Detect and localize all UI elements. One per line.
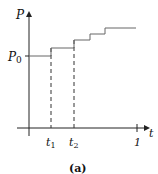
x-tick-label-one: 1 — [134, 136, 141, 149]
x-axis-label: t — [149, 127, 154, 140]
t2-label: t2 — [69, 136, 79, 150]
step-function-line — [29, 28, 136, 56]
chart-canvas: P t P0 t1 t2 1 (a) — [0, 0, 158, 174]
t1-label: t1 — [46, 136, 56, 150]
y-axis-label: P — [15, 8, 25, 22]
step-function-figure: P t P0 t1 t2 1 (a) — [0, 0, 158, 174]
p0-label: P0 — [7, 50, 22, 65]
figure-caption: (a) — [69, 162, 87, 174]
